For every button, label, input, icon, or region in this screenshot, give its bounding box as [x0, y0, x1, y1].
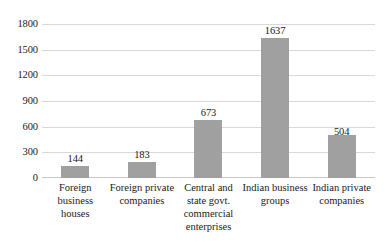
x-label-line: houses: [61, 208, 90, 219]
x-label-line: Central and: [184, 182, 233, 193]
y-tick-label: 1500: [4, 45, 38, 56]
bar-slot: 504: [308, 24, 375, 178]
x-label-line: Indian business: [243, 182, 308, 193]
bar-value-label: 183: [134, 149, 149, 160]
bar-value-label: 504: [334, 126, 349, 137]
x-label-central-and-state-govt-commercial-enterprises: Central and state govt. commercial enter…: [175, 181, 242, 233]
bar-value-label: 673: [201, 107, 216, 118]
y-tick-label: 1800: [4, 19, 38, 30]
x-axis-category-labels: Foreign business houses Foreign private …: [42, 181, 375, 245]
x-label-line: Foreign private: [110, 182, 174, 193]
x-label-indian-private-companies: Indian private companies: [308, 181, 375, 207]
x-label-line: groups: [261, 195, 290, 206]
x-label-foreign-private-companies: Foreign private companies: [109, 181, 176, 207]
x-label-foreign-business-houses: Foreign business houses: [42, 181, 109, 220]
y-tick-label: 300: [4, 147, 38, 158]
x-label-line: state govt.: [187, 195, 230, 206]
x-label-line: companies: [119, 195, 164, 206]
y-tick-label: 1200: [4, 70, 38, 81]
bar-value-label: 1637: [265, 25, 286, 36]
x-label-line: commercial: [184, 208, 234, 219]
bar-foreign-business-houses[interactable]: [61, 166, 89, 178]
x-label-line: business: [58, 195, 94, 206]
y-tick-label: 0: [4, 173, 38, 184]
plot-area: 144 183 673 1637 504: [42, 24, 375, 178]
bar-chart: 1800 1500 1200 900 600 300 0 144 183 673: [0, 0, 385, 248]
bar-slot: 1637: [242, 24, 309, 178]
y-tick-label: 600: [4, 122, 38, 133]
x-label-line: Indian private: [312, 182, 371, 193]
bar-value-label: 144: [68, 153, 83, 164]
bar-slot: 673: [175, 24, 242, 178]
bar-indian-private-companies[interactable]: [328, 135, 356, 178]
x-label-indian-business-groups: Indian business groups: [242, 181, 309, 207]
bar-central-and-state-govt-commercial-enterprises[interactable]: [194, 120, 222, 178]
x-label-line: companies: [319, 195, 364, 206]
bar-foreign-private-companies[interactable]: [128, 162, 156, 178]
bar-indian-business-groups[interactable]: [261, 38, 289, 178]
bar-slot: 144: [42, 24, 109, 178]
x-label-line: enterprises: [186, 221, 231, 232]
bar-slot: 183: [109, 24, 176, 178]
y-tick-label: 900: [4, 96, 38, 107]
x-label-line: Foreign: [59, 182, 92, 193]
